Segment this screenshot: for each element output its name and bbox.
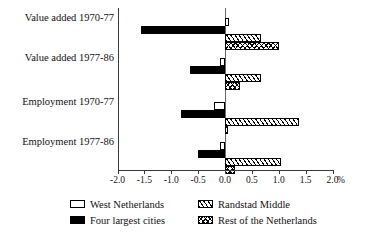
legend-item: Rest of the Netherlands [198,212,358,228]
x-axis-tick [225,170,226,174]
x-axis-tick-label: -0.5 [191,175,206,186]
legend-label: Randstad Middle [218,199,290,210]
x-axis-unit-label: % [337,175,345,186]
x-axis-tick-label: -1.5 [137,175,152,186]
legend-item: Randstad Middle [198,196,358,212]
x-axis-tick [118,170,119,174]
category-label: Value added 1970-77 [25,12,114,23]
bar-randstad-middle [225,158,281,166]
bar-west-netherlands [220,58,225,66]
legend-swatch-cross-icon [198,216,213,224]
chart-figure: Value added 1970-77 Value added 1977-86 … [0,0,366,237]
bar-randstad-middle [225,74,261,82]
bar-rest-of-the-netherlands [225,42,279,50]
x-axis-tick [198,170,199,174]
legend-label: West Netherlands [90,199,164,210]
bar-west-netherlands [214,102,225,110]
x-axis-tick [252,170,253,174]
legend-label: Four largest cities [90,215,165,226]
chart-legend: West Netherlands Randstad Middle Four la… [70,196,360,228]
category-label: Employment 1977-86 [22,136,114,147]
x-axis-tick [279,170,280,174]
x-axis-tick [306,170,307,174]
legend-label: Rest of the Netherlands [218,215,317,226]
x-axis-tick-label: 1.5 [300,175,312,186]
bar-rest-of-the-netherlands [225,126,228,134]
category-label: Value added 1977-86 [25,52,114,63]
category-label: Employment 1970-77 [22,96,114,107]
x-axis-tick-label: 0.5 [246,175,258,186]
bar-rest-of-the-netherlands [225,82,240,90]
x-axis-tick-label: 1.0 [273,175,285,186]
bar-west-netherlands [225,18,229,26]
bar-four-largest-cities [141,26,225,34]
x-axis-tick-label: -1.0 [164,175,179,186]
x-axis-tick [171,170,172,174]
legend-swatch-hatch-icon [198,200,213,208]
bar-west-netherlands [220,142,225,150]
bar-four-largest-cities [181,110,225,118]
x-axis-tick [333,170,334,174]
legend-item: West Netherlands [70,196,198,212]
plot-area [118,8,333,170]
x-axis-line [118,170,334,171]
x-axis-tick-label: 0.0 [219,175,231,186]
legend-swatch-black-icon [70,216,85,224]
bar-randstad-middle [225,118,299,126]
x-axis-tick-label: -2.0 [110,175,125,186]
legend-swatch-white-icon [70,200,85,208]
y-axis-line [118,8,119,170]
x-axis-tick [144,170,145,174]
legend-item: Four largest cities [70,212,198,228]
bar-randstad-middle [225,34,261,42]
bar-four-largest-cities [198,150,225,158]
bar-four-largest-cities [190,66,225,74]
